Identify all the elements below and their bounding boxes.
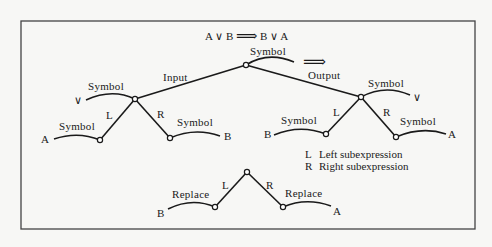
replace-right-label: Replace [285,187,323,199]
input-label: Input [163,71,188,83]
output-root-node [358,94,363,99]
output-right-edge-label: R [383,106,391,118]
output-root-value: ∨ [413,91,421,103]
input-left-edge-label: L [106,109,113,121]
top-node [243,62,248,67]
input-root-symbol-label: Symbol [88,80,124,92]
replace-right-value: A [333,205,341,217]
input-left-symbol-arc [54,135,100,140]
output-label: Output [308,69,340,81]
input-left-node [97,137,102,142]
replace-left-label: Replace [172,188,210,200]
output-right-symbol-label: Symbol [400,115,436,127]
replace-right-arc [283,202,331,207]
output-left-edge [326,97,361,134]
output-right-node [393,134,398,139]
replace-left-node [212,204,217,209]
input-root-symbol-arc [86,94,135,100]
input-right-node [167,135,172,140]
input-right-symbol-label: Symbol [177,116,213,128]
formula-lhs: A ∨ B [205,30,233,42]
replace-right-node [280,204,285,209]
input-right-edge-label: R [157,108,165,120]
output-left-symbol-arc [274,129,326,135]
input-left-symbol-label: Symbol [59,120,95,132]
transform-arrow: ⟹ [303,53,326,70]
input-root-node [132,96,137,101]
replace-root-node [244,169,249,174]
formula-rhs: B ∨ A [260,30,288,42]
output-root-symbol-arc [361,90,410,97]
legend-text-l: Left subexpression [319,148,403,160]
output-left-symbol-label: Symbol [281,114,317,126]
output-right-symbol-arc [396,131,446,137]
output-left-edge-label: L [333,106,340,118]
input-edge [135,65,246,99]
replace-left-edge [215,172,247,207]
formula-implies-arrow: ⟹ [236,28,258,44]
output-root-symbol-label: Symbol [368,77,404,89]
output-right-value: A [448,128,456,140]
replace-right-edge-label: R [266,179,274,191]
replace-left-edge-label: L [222,179,229,191]
input-right-symbol-arc [170,132,220,138]
output-left-node [323,131,328,136]
top-symbol-arc [246,57,294,65]
input-right-value: B [224,130,231,142]
input-right-edge [135,99,170,138]
legend-key-l: L [305,148,312,160]
output-left-value: B [264,128,271,140]
replace-left-value: B [157,207,164,219]
input-left-value: A [41,133,49,145]
output-right-edge [361,97,396,137]
diagram-canvas: A ∨ B ⟹ B ∨ A Symbol ⟹ Input Output Symb… [0,0,492,247]
legend-text-r: Right subexpression [319,160,409,172]
input-root-value: ∨ [74,94,82,106]
legend-key-r: R [305,160,313,172]
replace-left-arc [168,202,215,209]
replace-right-edge [247,172,283,207]
top-symbol-label: Symbol [250,45,286,57]
